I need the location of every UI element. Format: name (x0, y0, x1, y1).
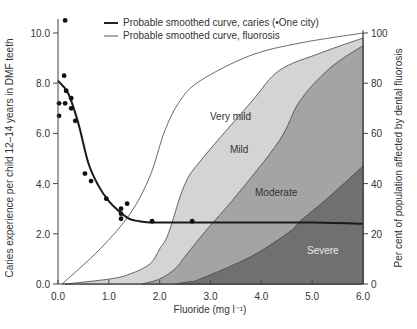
caries-data-point (57, 113, 62, 118)
caries-data-point (69, 106, 74, 111)
caries-data-point (104, 196, 109, 201)
x-tick-label: 4.0 (254, 291, 268, 302)
caries-data-point (69, 96, 74, 101)
x-tick-label: 0.0 (51, 291, 65, 302)
y-tick-label-right: 40 (371, 179, 383, 190)
caries-data-point (63, 101, 68, 106)
legend: Probable smoothed curve, caries (•One ci… (104, 17, 319, 41)
caries-data-point (89, 179, 94, 184)
y-tick-label-left: 2.0 (36, 229, 50, 240)
label-very-mild: Very mild (210, 111, 251, 122)
caries-data-point (64, 88, 69, 93)
label-mild: Mild (230, 144, 248, 155)
y-axis-title-right: Per cent of population affected by denta… (393, 49, 404, 268)
y-tick-label-right: 60 (371, 128, 383, 139)
x-tick-label: 1.0 (102, 291, 116, 302)
caries-data-point (119, 211, 124, 216)
y-tick-label-left: 0.0 (36, 279, 50, 290)
y-axis-title-left: Caries experience per child 12–14 years … (4, 38, 15, 277)
caries-data-point (83, 171, 88, 176)
caries-data-point (57, 101, 62, 106)
label-severe: Severe (307, 245, 339, 256)
caries-data-point (63, 18, 68, 23)
y-tick-label-right: 20 (371, 229, 383, 240)
fluoride-chart: 0.01.02.03.04.05.06.00.02.04.06.08.010.0… (0, 0, 417, 329)
legend-fluorosis-label: Probable smoothed curve, fluorosis (123, 30, 280, 41)
label-moderate: Moderate (255, 187, 298, 198)
x-tick-label: 5.0 (305, 291, 319, 302)
caries-data-point (73, 118, 78, 123)
caries-data-point (119, 206, 124, 211)
caries-data-point (125, 201, 130, 206)
y-tick-label-left: 10.0 (31, 28, 51, 39)
y-tick-label-right: 100 (371, 28, 388, 39)
y-tick-label-left: 6.0 (36, 128, 50, 139)
x-tick-label: 6.0 (356, 291, 370, 302)
y-tick-label-left: 8.0 (36, 78, 50, 89)
x-tick-label: 3.0 (204, 291, 218, 302)
x-tick-label: 2.0 (153, 291, 167, 302)
caries-data-point (62, 73, 67, 78)
caries-data-point (190, 219, 195, 224)
caries-data-point (150, 219, 155, 224)
y-tick-label-right: 0 (371, 279, 377, 290)
y-tick-label-left: 4.0 (36, 179, 50, 190)
legend-caries-label: Probable smoothed curve, caries (•One ci… (123, 17, 319, 28)
x-axis-title: Fluoride (mg l⁻¹) (174, 304, 247, 315)
caries-data-point (119, 216, 124, 221)
y-tick-label-right: 80 (371, 78, 383, 89)
